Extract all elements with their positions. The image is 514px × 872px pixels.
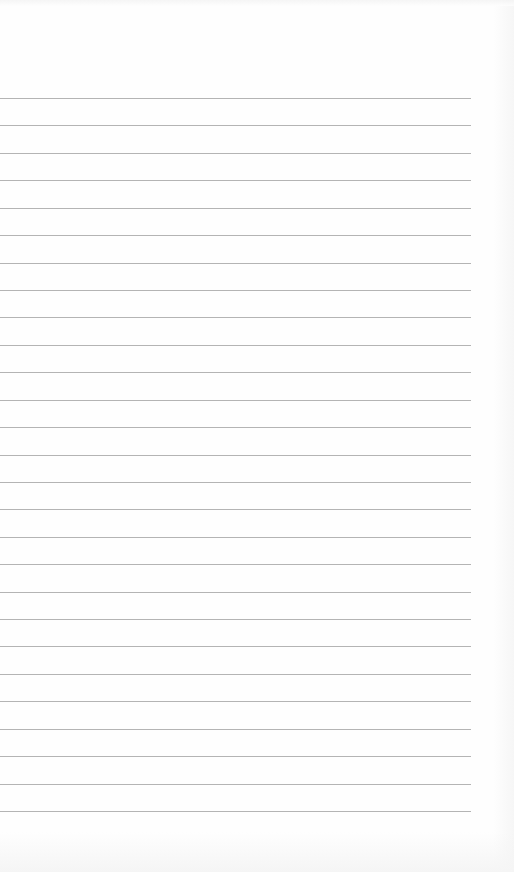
ruled-line <box>0 427 471 428</box>
ruled-line <box>0 125 471 126</box>
paper-bottom-edge <box>0 832 514 872</box>
ruled-line <box>0 811 471 812</box>
ruled-line <box>0 674 471 675</box>
ruled-line <box>0 208 471 209</box>
ruled-line <box>0 646 471 647</box>
ruled-line <box>0 372 471 373</box>
ruled-line <box>0 290 471 291</box>
ruled-line <box>0 98 471 99</box>
ruled-line <box>0 592 471 593</box>
ruled-line <box>0 509 471 510</box>
ruled-line <box>0 400 471 401</box>
ruled-line <box>0 784 471 785</box>
ruled-line <box>0 701 471 702</box>
lined-paper-page <box>0 0 514 872</box>
ruled-line <box>0 317 471 318</box>
ruled-line <box>0 729 471 730</box>
ruled-line <box>0 455 471 456</box>
ruled-line <box>0 756 471 757</box>
ruled-line <box>0 537 471 538</box>
ruled-line <box>0 153 471 154</box>
ruled-line <box>0 482 471 483</box>
ruled-line <box>0 235 471 236</box>
ruled-line <box>0 345 471 346</box>
ruled-line <box>0 619 471 620</box>
ruled-line <box>0 180 471 181</box>
paper-top-edge <box>0 0 514 6</box>
ruled-line <box>0 564 471 565</box>
ruled-line <box>0 263 471 264</box>
